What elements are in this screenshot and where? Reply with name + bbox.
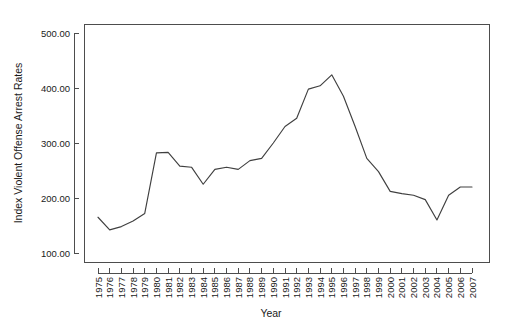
x-axis-tick-label: 1997 [350, 277, 361, 298]
x-axis: 1975197619771978197919801981198219831984… [93, 268, 478, 298]
y-axis-tick-label: 300.00 [41, 138, 70, 149]
x-axis-tick-label: 2007 [467, 277, 478, 298]
y-axis-title: Index Violent Offense Arrest Rates [12, 63, 24, 224]
x-axis-tick-label: 1994 [315, 277, 326, 298]
x-axis-tick-label: 1979 [139, 277, 150, 298]
x-axis-tick-label: 1998 [361, 277, 372, 298]
x-axis-tick-label: 1984 [198, 277, 209, 298]
x-axis-tick-label: 1981 [163, 277, 174, 298]
x-axis-tick-label: 1983 [186, 277, 197, 298]
x-axis-tick-label: 1987 [233, 277, 244, 298]
x-axis-tick-label: 1999 [373, 277, 384, 298]
line-chart: 100.00200.00300.00400.00500.00 197519761… [0, 0, 511, 331]
x-axis-tick-label: 1978 [128, 277, 139, 298]
x-axis-tick-label: 1989 [256, 277, 267, 298]
x-axis-tick-label: 1992 [291, 277, 302, 298]
y-axis-tick-label: 400.00 [41, 83, 70, 94]
x-axis-tick-label: 1991 [280, 277, 291, 298]
x-axis-tick-label: 1996 [338, 277, 349, 298]
x-axis-tick-label: 1995 [326, 277, 337, 298]
x-axis-title: Year [260, 307, 282, 319]
x-axis-tick-label: 2006 [455, 277, 466, 298]
x-axis-tick-label: 1976 [104, 277, 115, 298]
x-axis-tick-label: 2003 [420, 277, 431, 298]
x-axis-tick-label: 1977 [116, 277, 127, 298]
x-axis-tick-label: 2004 [431, 277, 442, 298]
x-axis-tick-label: 1988 [244, 277, 255, 298]
y-axis-tick-label: 100.00 [41, 248, 70, 259]
x-axis-tick-label: 1982 [174, 277, 185, 298]
x-axis-tick-label: 2000 [385, 277, 396, 298]
x-axis-tick-label: 1985 [209, 277, 220, 298]
x-axis-tick-label: 1980 [151, 277, 162, 298]
x-axis-tick-label: 1990 [268, 277, 279, 298]
x-axis-tick-label: 1975 [93, 277, 104, 298]
y-axis-tick-label: 200.00 [41, 193, 70, 204]
y-axis-tick-label: 500.00 [41, 28, 70, 39]
x-axis-tick-label: 2002 [408, 277, 419, 298]
x-axis-tick-label: 2001 [396, 277, 407, 298]
x-axis-tick-label: 2005 [443, 277, 454, 298]
chart-container: 100.00200.00300.00400.00500.00 197519761… [0, 0, 511, 331]
x-axis-tick-label: 1986 [221, 277, 232, 298]
x-axis-tick-label: 1993 [303, 277, 314, 298]
